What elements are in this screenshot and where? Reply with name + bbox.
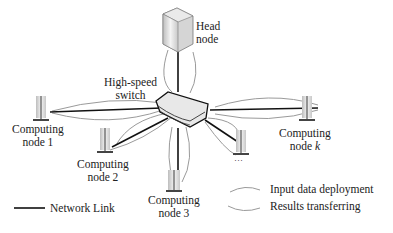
computing-node-1-label: Computing node 1 (12, 123, 64, 149)
legend-results-swatch (228, 206, 260, 211)
head-node-label: Head node (196, 20, 220, 46)
switch-icon (156, 92, 208, 127)
computing-node-1-icon (33, 96, 49, 121)
node-3-line2: node 3 (148, 207, 200, 220)
node-2-line1: Computing (77, 158, 129, 171)
node-k-line1: Computing (279, 127, 331, 140)
switch-label: High-speed switch (104, 76, 157, 102)
head-node-label-line2: node (196, 33, 220, 46)
switch-label-line2: switch (104, 89, 157, 102)
head-node-label-line1: Head (196, 20, 220, 33)
computing-node-2-label: Computing node 2 (77, 158, 129, 184)
node-k-line2: node k (279, 140, 331, 153)
legend-network-link-label: Network Link (50, 202, 115, 215)
switch-label-line1: High-speed (104, 76, 157, 89)
node-1-line1: Computing (12, 123, 64, 136)
node-3-line1: Computing (148, 194, 200, 207)
head-node-server-icon (163, 8, 193, 52)
legend-input-label: Input data deployment (270, 183, 373, 196)
computing-node-3-label: Computing node 3 (148, 194, 200, 220)
computing-node-2-icon (97, 128, 113, 153)
node-k-index: k (315, 140, 320, 152)
node-k-prefix: node (290, 140, 315, 152)
legend-results-label: Results transferring (270, 200, 360, 213)
node-2-line2: node 2 (77, 171, 129, 184)
computing-node-k-label: Computing node k (279, 127, 331, 153)
node-1-line2: node 1 (12, 136, 64, 149)
legend-input-swatch (230, 187, 260, 192)
computing-node-3-icon (166, 170, 182, 192)
ellipsis-label: … (234, 152, 243, 165)
